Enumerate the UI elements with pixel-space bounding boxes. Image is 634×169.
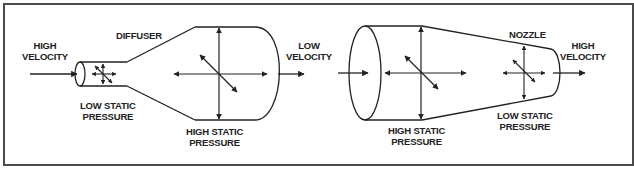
high-pressure-arrows-icon <box>174 28 267 119</box>
diffuser-high-pressure-label: HIGH STATIC PRESSURE <box>186 126 243 148</box>
nozzle-high-pressure-arrows-icon <box>385 27 466 119</box>
diffuser-name-label: DIFFUSER <box>116 30 162 41</box>
diffuser-inlet-velocity-label: HIGH VELOCITY <box>22 40 68 62</box>
nozzle-high-pressure-label: HIGH STATIC PRESSURE <box>388 125 445 147</box>
diffuser-low-pressure-label: LOW STATIC PRESSURE <box>80 100 136 122</box>
low-pressure-arrows-icon <box>92 64 116 84</box>
nozzle-low-pressure-label: LOW STATIC PRESSURE <box>497 110 553 132</box>
diffuser-nozzle-diagram <box>0 0 634 169</box>
diffuser-outlet-velocity-label: LOW VELOCITY <box>286 40 332 62</box>
nozzle-outlet-velocity-label: HIGH VELOCITY <box>560 40 606 62</box>
nozzle-low-pressure-arrows-icon <box>503 46 545 99</box>
nozzle-name-label: NOZZLE <box>509 29 546 40</box>
